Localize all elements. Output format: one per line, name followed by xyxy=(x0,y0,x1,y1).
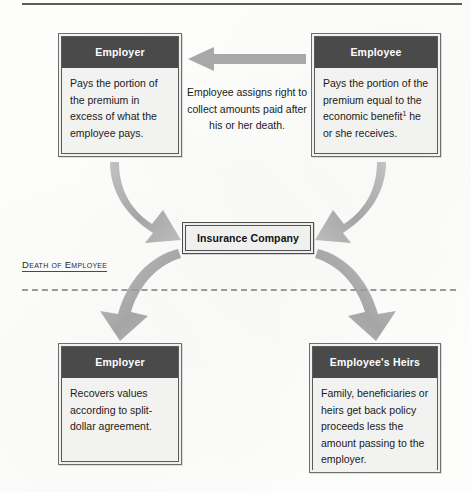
insurance-company-label: Insurance Company xyxy=(197,232,299,244)
box-employees-heirs: Employee's Heirs Family, beneficiaries o… xyxy=(309,343,441,473)
box-employer-top-body: Pays the portion of the premium in exces… xyxy=(62,68,178,153)
box-employer-bottom-inner: Employer Recovers values according to sp… xyxy=(61,346,179,462)
diagram-page: Employer Pays the portion of the premium… xyxy=(0,0,471,492)
box-employees-heirs-header: Employee's Heirs xyxy=(313,347,437,378)
box-employee-top-inner: Employee Pays the portion of the premium… xyxy=(314,36,438,154)
box-employer-bottom: Employer Recovers values according to sp… xyxy=(58,343,182,465)
box-insurance-company-inner: Insurance Company xyxy=(185,225,311,251)
arrow-employer-to-insurer xyxy=(110,162,181,243)
arrow-insurer-to-heirs xyxy=(315,249,396,341)
death-of-employee-divider xyxy=(22,289,456,291)
arrow-employee-to-insurer xyxy=(315,162,386,243)
box-employer-top: Employer Pays the portion of the premium… xyxy=(58,33,182,157)
box-employee-top-body: Pays the portion of the premium equal to… xyxy=(315,68,437,153)
box-employer-top-header: Employer xyxy=(62,37,178,68)
assignment-arrow-left-icon xyxy=(188,46,306,72)
box-insurance-company: Insurance Company xyxy=(182,222,314,254)
box-employer-bottom-header: Employer xyxy=(62,347,178,378)
box-employees-heirs-body: Family, beneficiaries or heirs get back … xyxy=(313,378,437,472)
box-employee-top-header: Employee xyxy=(315,37,437,68)
box-employer-bottom-body: Recovers values according to split-dolla… xyxy=(62,378,178,461)
top-horizontal-rule xyxy=(22,3,462,5)
box-employer-top-inner: Employer Pays the portion of the premium… xyxy=(61,36,179,154)
arrow-insurer-to-employer xyxy=(100,249,181,341)
death-of-employee-label: Death of Employee xyxy=(22,259,107,272)
box-employee-top: Employee Pays the portion of the premium… xyxy=(311,33,441,157)
assignment-arrow-caption: Employee assigns right to collect amount… xyxy=(184,84,310,134)
box-employees-heirs-inner: Employee's Heirs Family, beneficiaries o… xyxy=(312,346,438,470)
